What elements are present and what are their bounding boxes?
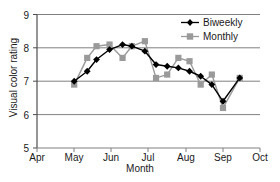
y-tick-labels: 9 8 7 6 5: [23, 10, 29, 155]
data-point-biweekly-10: [186, 68, 193, 75]
x-tick-label-oct: Oct: [252, 152, 268, 163]
chart-plot-area: 9 8 7 6 5 Apr May Jun Jul Aug Sep Oct: [0, 0, 280, 182]
data-series-layer: [71, 38, 243, 111]
visual-color-rating-chart: 9 8 7 6 5 Apr May Jun Jul Aug Sep Oct: [0, 0, 280, 182]
gridlines: [37, 15, 260, 115]
legend-marker-diamond-icon: [187, 19, 193, 26]
y-tick-label-6: 6: [23, 110, 29, 121]
data-point-biweekly-8: [164, 63, 171, 70]
y-tick-label-8: 8: [23, 43, 29, 54]
y-tick-label-7: 7: [23, 76, 29, 87]
legend-label-monthly: Monthly: [203, 31, 238, 42]
x-tick-label-jul: Jul: [142, 152, 155, 163]
x-tick-label-jun: Jun: [103, 152, 119, 163]
x-tick-label-sep: Sep: [214, 152, 232, 163]
x-tick-labels: Apr May Jun Jul Aug Sep Oct: [29, 152, 268, 163]
x-axis-title: Month: [0, 163, 280, 174]
y-axis-title: Visual color rating: [8, 13, 19, 143]
y-tick-label-9: 9: [23, 10, 29, 21]
legend-marker-square-icon: [187, 33, 193, 39]
data-point-biweekly-4: [119, 41, 126, 48]
x-tick-label-apr: Apr: [29, 152, 45, 163]
legend-label-biweekly: Biweekly: [203, 17, 242, 28]
data-point-biweekly-9: [175, 65, 182, 72]
chart-legend: Biweekly Monthly: [181, 17, 242, 42]
x-tick-label-aug: Aug: [177, 152, 195, 163]
x-tick-label-may: May: [65, 152, 84, 163]
